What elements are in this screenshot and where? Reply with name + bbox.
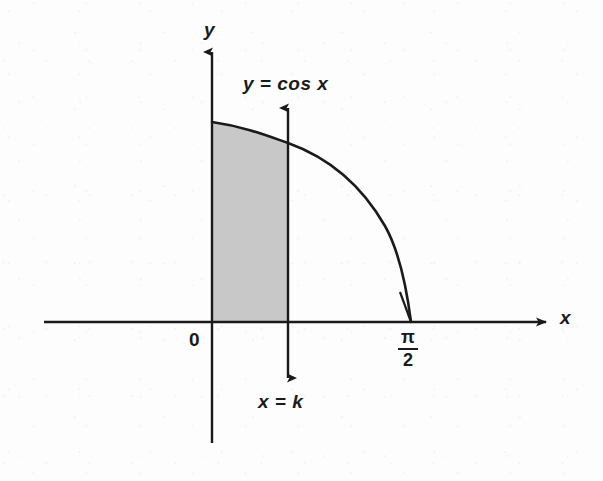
x-tick-label-pi-over-2: π 2 — [398, 328, 418, 370]
pi-over-2-numerator: π — [398, 328, 418, 347]
y-axis-label: y — [204, 20, 215, 39]
origin-label: 0 — [189, 330, 200, 349]
figure-canvas: y x 0 y = cos x x = k π 2 — [0, 0, 603, 481]
vertical-line-equation-label: x = k — [258, 392, 303, 411]
pi-over-2-denominator: 2 — [398, 351, 418, 370]
curve-equation-label: y = cos x — [243, 74, 328, 93]
x-axis-label: x — [560, 308, 571, 327]
shaded-area-under-curve — [212, 122, 288, 322]
